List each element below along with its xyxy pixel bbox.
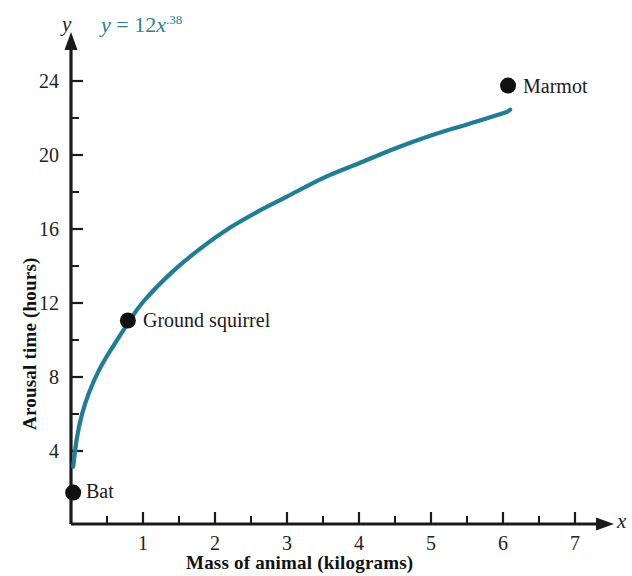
curve-equation-label: y = 12x.38 bbox=[101, 13, 182, 36]
y-axis-title: Arousal time (hours) bbox=[20, 257, 39, 430]
equation-operator: = bbox=[116, 12, 128, 37]
xtick-label-4: 4 bbox=[339, 533, 379, 553]
ytick-label-4: 4 bbox=[10, 441, 59, 461]
y-axis-variable: y bbox=[62, 14, 71, 35]
point-label-bat: Bat bbox=[86, 481, 114, 501]
data-point-marmot bbox=[500, 78, 516, 94]
data-point-group bbox=[65, 78, 516, 501]
xtick-label-1: 1 bbox=[123, 533, 163, 553]
equation-coefficient: 12 bbox=[134, 12, 156, 37]
power-curve bbox=[73, 110, 510, 467]
point-label-marmot: Marmot bbox=[523, 76, 587, 96]
data-point-bat bbox=[65, 485, 81, 501]
xtick-label-7: 7 bbox=[555, 533, 595, 553]
chart-figure: y x y = 12x.38 4 8 12 16 20 24 1 2 3 4 5… bbox=[0, 0, 632, 576]
ytick-label-24: 24 bbox=[10, 71, 59, 91]
equation-variable: x bbox=[156, 12, 166, 37]
x-axis-variable: x bbox=[617, 511, 626, 532]
xtick-label-2: 2 bbox=[195, 533, 235, 553]
ytick-label-20: 20 bbox=[10, 145, 59, 165]
ytick-label-16: 16 bbox=[10, 219, 59, 239]
x-axis-title: Mass of animal (kilograms) bbox=[186, 553, 413, 572]
xtick-label-3: 3 bbox=[267, 533, 307, 553]
x-axis-major-ticks bbox=[143, 512, 575, 524]
x-axis bbox=[71, 518, 614, 531]
xtick-label-5: 5 bbox=[411, 533, 451, 553]
xtick-label-6: 6 bbox=[483, 533, 523, 553]
data-point-ground-squirrel bbox=[120, 313, 136, 329]
equation-exponent: .38 bbox=[166, 12, 182, 27]
point-label-ground-squirrel: Ground squirrel bbox=[143, 310, 270, 330]
equation-lhs: y bbox=[101, 12, 111, 37]
